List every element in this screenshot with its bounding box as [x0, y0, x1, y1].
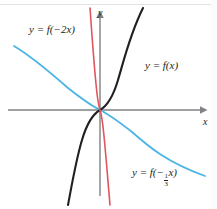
- y-axis-label: y: [98, 8, 102, 18]
- x-axis-label: x: [203, 117, 207, 127]
- label-blue-lead: y = f(−: [132, 166, 164, 178]
- x-axis-arrowhead: [200, 106, 208, 114]
- label-curve-f-negative-two-x: y = f(−2x): [29, 24, 75, 35]
- label-curve-f-negative-one-third-x: y = f(−13x): [132, 167, 177, 189]
- fraction-denominator: 3: [164, 180, 168, 188]
- figure-container: y x y = f(−2x) y = f(x) y = f(−13x): [0, 0, 217, 209]
- label-curve-f-x: y = f(x): [145, 60, 178, 71]
- label-blue-tail: x): [168, 166, 177, 178]
